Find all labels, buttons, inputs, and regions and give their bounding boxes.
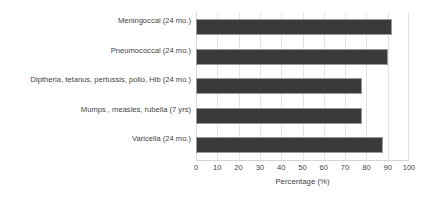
category-label-text: Diptheria, tetanus, pertussis, polio, Hi… [31,75,191,84]
bar-pneumococcal [196,49,388,65]
category-label-mmr: Mumps , measles, rubella (7 yrs) [0,105,191,114]
category-label-text: Pneumococcal (24 mo.) [111,46,191,55]
category-label-dtap-polio-hib: Diptheria, tetanus, pertussis, polio, Hi… [0,75,191,84]
bar-meningoccal [196,19,392,35]
bar-row [196,49,409,65]
bar-row [196,108,409,124]
x-axis-title: Percentage (%) [196,177,409,186]
bar-row [196,19,409,35]
category-label-pneumococcal: Pneumococcal (24 mo.) [0,46,191,55]
category-label-text: Meningoccal (24 mo.) [118,16,191,25]
category-label-text: Mumps , measles, rubella (7 yrs) [81,105,191,114]
x-axis-line [196,160,409,161]
bar-chart: Meningoccal (24 mo.) Pneumococcal (24 mo… [0,0,424,198]
bar-varicella [196,137,383,153]
bar-row [196,137,409,153]
category-label-text: Varicella (24 mo.) [132,134,191,143]
bar-dtap-polio-hib [196,78,362,94]
x-tick-100: 100 [396,163,422,172]
category-label-meningoccal: Meningoccal (24 mo.) [0,16,191,25]
bar-mmr [196,108,362,124]
bar-row [196,78,409,94]
category-label-varicella: Varicella (24 mo.) [0,134,191,143]
plot-area [196,12,409,160]
